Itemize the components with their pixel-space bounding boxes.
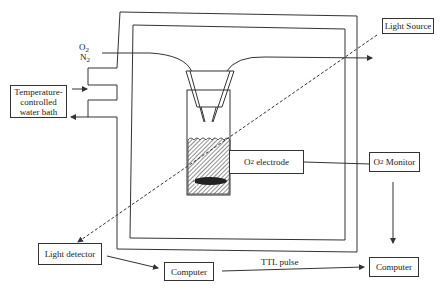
ttl-pulse-label: TTL pulse (261, 257, 298, 267)
detector-to-computer-arrow (107, 256, 158, 268)
gas-label-n2: N2 (80, 52, 90, 62)
light-source-box: Light Source (382, 18, 434, 34)
o2-monitor-box: O2 Monitor (369, 152, 420, 172)
stir-bar-icon (193, 177, 227, 185)
water-bath-box: Temperature- controlled water bath (10, 85, 67, 118)
gas-outlet-line (212, 57, 372, 122)
electrode-to-monitor-line (304, 162, 370, 164)
computer-left-box: Computer (164, 262, 214, 281)
gas-label-o2: O2 (79, 42, 89, 52)
computer-right-box: Computer (369, 257, 419, 277)
light-beam-path (78, 35, 377, 242)
outer-chamber (88, 12, 357, 252)
o2-electrode-box: O2 electrode (229, 150, 304, 174)
ttl-pulse-arrow (222, 267, 364, 271)
vessel-stopper (186, 71, 234, 122)
light-detector-box: Light detector (38, 243, 102, 265)
